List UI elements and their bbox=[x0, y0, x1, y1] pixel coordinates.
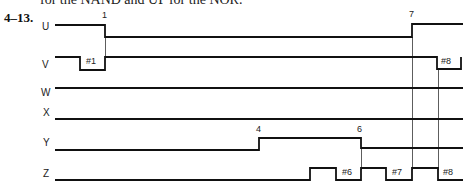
waveform-u bbox=[55, 24, 463, 37]
waveform-z bbox=[55, 168, 463, 180]
timing-diagram: for the NAND and UP for the NOR. 4–13. U… bbox=[0, 0, 463, 181]
waveforms bbox=[0, 0, 463, 181]
waveform-y bbox=[55, 138, 463, 150]
waveform-v bbox=[55, 57, 461, 70]
